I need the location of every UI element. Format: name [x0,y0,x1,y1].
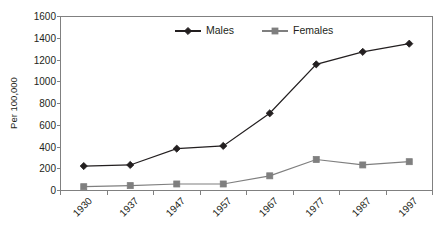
data-point [360,162,366,168]
y-tick-label: 800 [39,98,56,109]
legend-marker [272,28,278,34]
data-point [406,159,412,165]
y-tick-label: 400 [39,142,56,153]
data-point [220,181,226,187]
y-tick-label: 1400 [34,33,57,44]
y-tick-label: 0 [50,185,56,196]
data-point [267,173,273,179]
y-tick-label: 1200 [34,55,57,66]
y-tick-label: 600 [39,120,56,131]
line-chart: Per 100,000 0200400600800100012001400160… [0,0,444,232]
chart-container: Per 100,000 0200400600800100012001400160… [0,0,444,232]
data-point [81,184,87,190]
data-point [127,183,133,189]
data-point [313,157,319,163]
legend-label: Females [293,24,333,36]
legend-label: Males [206,24,234,36]
data-point [174,181,180,187]
y-axis-title: Per 100,000 [8,77,19,129]
y-tick-label: 1600 [34,11,57,22]
y-tick-label: 1000 [34,76,57,87]
y-tick-label: 200 [39,163,56,174]
